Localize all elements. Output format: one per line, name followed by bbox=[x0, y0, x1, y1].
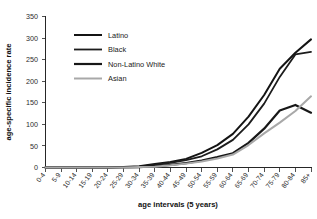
x-tick-label: 20-24 bbox=[93, 171, 109, 189]
x-tick-label: 60-64 bbox=[217, 171, 233, 189]
incidence-rate-line-chart: 050100150200250300350 0-45-910-1415-1920… bbox=[0, 0, 317, 219]
y-tick-label: 0 bbox=[34, 163, 38, 172]
x-tick-label: 45-49 bbox=[171, 171, 187, 189]
x-tick-label: 5-9 bbox=[50, 171, 62, 183]
chart-legend: LatinoBlackNon-Latino WhiteAsian bbox=[74, 31, 165, 83]
x-tick-label: 10-14 bbox=[61, 171, 77, 189]
y-tick-label: 100 bbox=[26, 120, 38, 129]
series-line-latino bbox=[46, 39, 312, 167]
legend-label-black: Black bbox=[108, 45, 126, 54]
x-tick-label: 25-29 bbox=[108, 171, 124, 189]
x-tick-label: 50-54 bbox=[186, 171, 202, 189]
y-tick-label: 200 bbox=[26, 77, 38, 86]
legend-label-asian: Asian bbox=[108, 74, 127, 83]
series-line-asian bbox=[46, 96, 312, 167]
x-tick-label: 65-69 bbox=[233, 171, 249, 189]
x-tick-label: 40-44 bbox=[155, 171, 171, 189]
y-axis-tick-labels: 050100150200250300350 bbox=[26, 12, 38, 172]
x-tick-label: 55-59 bbox=[202, 171, 218, 189]
chart-container: 050100150200250300350 0-45-910-1415-1920… bbox=[0, 0, 317, 219]
legend-label-non-latino-white: Non-Latino White bbox=[108, 60, 165, 69]
y-tick-label: 300 bbox=[26, 34, 38, 43]
x-tick-label: 85+ bbox=[299, 171, 312, 184]
x-axis-title: age intervals (5 years) bbox=[138, 200, 218, 209]
series-line-black bbox=[46, 52, 312, 168]
x-axis: 0-45-910-1415-1920-2425-2930-3435-3940-4… bbox=[35, 168, 312, 190]
x-axis-tick-labels: 0-45-910-1415-1920-2425-2930-3435-3940-4… bbox=[35, 171, 312, 189]
y-tick-label: 50 bbox=[30, 142, 38, 151]
y-tick-label: 150 bbox=[26, 98, 38, 107]
y-tick-label: 350 bbox=[26, 12, 38, 21]
x-tick-label: 0-4 bbox=[35, 171, 47, 183]
y-axis-title: age-specific incidence rate bbox=[4, 43, 13, 140]
y-tick-label: 250 bbox=[26, 55, 38, 64]
x-tick-label: 80-84 bbox=[280, 171, 296, 189]
x-tick-label: 75-79 bbox=[264, 171, 280, 189]
x-tick-label: 35-39 bbox=[139, 171, 155, 189]
x-tick-label: 30-34 bbox=[124, 171, 140, 189]
series-lines bbox=[46, 39, 312, 167]
legend-label-latino: Latino bbox=[108, 31, 128, 40]
x-tick-label: 70-74 bbox=[249, 171, 265, 189]
series-line-non-latino-white bbox=[46, 105, 312, 168]
y-axis: 050100150200250300350 bbox=[26, 12, 46, 172]
x-tick-label: 15-19 bbox=[77, 171, 93, 189]
y-axis-ticks bbox=[42, 17, 46, 168]
